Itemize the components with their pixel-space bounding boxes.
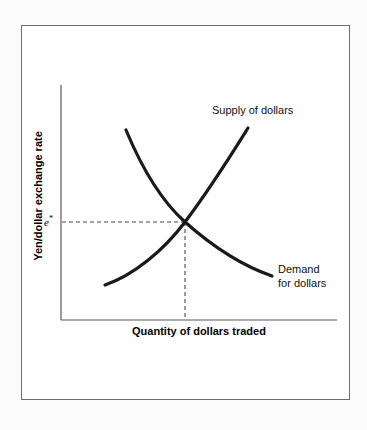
exchange-rate-supply-demand-chart	[0, 0, 367, 430]
demand-curve-label: Demand for dollars	[278, 263, 326, 291]
x-axis-title: Quantity of dollars traded	[61, 325, 337, 337]
equilibrium-rate-asterisk: *	[49, 214, 53, 223]
y-axis-title: Yen/dollar exchange rate	[32, 96, 44, 296]
supply-curve	[105, 128, 248, 285]
figure-page: Supply of dollars Demand for dollars e* …	[0, 0, 367, 430]
equilibrium-rate-label: e*	[44, 214, 53, 228]
supply-curve-label: Supply of dollars	[212, 104, 293, 118]
